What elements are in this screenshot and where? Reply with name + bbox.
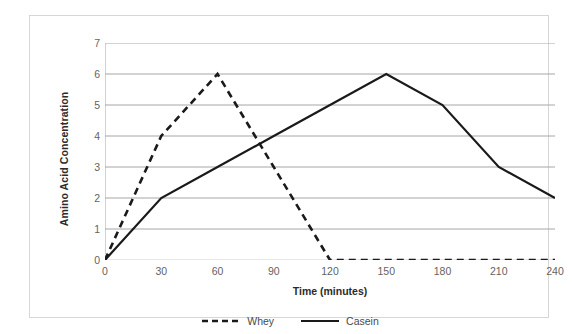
x-tick-label: 210 (479, 266, 519, 277)
x-axis-tick-labels: 0306090120150180210240 (105, 266, 555, 282)
legend-label: Whey (247, 315, 274, 327)
legend-swatch-casein-icon (300, 316, 340, 326)
x-tick-label: 180 (423, 266, 463, 277)
x-tick-label: 30 (141, 266, 181, 277)
chart-frame: Amino Acid Concentration 01234567 030609… (29, 15, 549, 318)
y-tick-label: 3 (78, 162, 100, 173)
y-tick-label: 2 (78, 193, 100, 204)
y-tick-label: 7 (78, 38, 100, 49)
x-tick-label: 150 (366, 266, 406, 277)
y-axis-tick-labels: 01234567 (76, 43, 100, 260)
x-tick-label: 0 (85, 266, 125, 277)
x-tick-label: 60 (198, 266, 238, 277)
y-axis-title: Amino Acid Concentration (58, 59, 70, 259)
plot-area (105, 43, 555, 260)
legend-item-whey[interactable]: Whey (201, 315, 274, 327)
x-axis-title: Time (minutes) (105, 285, 555, 297)
chart-figure: Amino Acid Concentration 01234567 030609… (0, 0, 572, 334)
y-tick-label: 6 (78, 69, 100, 80)
y-tick-label: 0 (78, 255, 100, 266)
plot-svg (105, 43, 555, 260)
y-tick-label: 4 (78, 131, 100, 142)
x-tick-label: 240 (535, 266, 572, 277)
gridlines (105, 43, 555, 260)
legend-item-casein[interactable]: Casein (300, 315, 379, 327)
y-tick-label: 5 (78, 100, 100, 111)
y-tick-label: 1 (78, 224, 100, 235)
x-tick-label: 120 (310, 266, 350, 277)
legend-swatch-whey-icon (201, 316, 241, 326)
legend-label: Casein (346, 315, 379, 327)
x-tick-label: 90 (254, 266, 294, 277)
chart-legend: WheyCasein (30, 315, 550, 327)
